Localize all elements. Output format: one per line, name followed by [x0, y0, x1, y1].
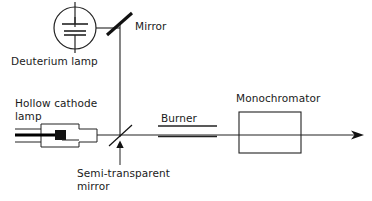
hollow-cathode-cup [55, 130, 66, 140]
semi-transparent-mirror-pointer-head [116, 141, 123, 149]
semi-transparent-mirror-pointer [116, 141, 123, 166]
mirror-label: Mirror [135, 20, 167, 32]
hollow-cathode-lamp-label-line1: Hollow cathode [15, 97, 97, 109]
deuterium-lamp-label: Deuterium lamp [11, 55, 98, 67]
hollow-cathode-lamp-symbol [15, 124, 97, 147]
semi-transparent-mirror-label-line2: mirror [77, 180, 110, 192]
burner-label: Burner [161, 112, 198, 124]
hollow-cathode-lamp-label-line2: lamp [15, 110, 42, 122]
schematic-canvas: Mirror Deuterium lamp Hollow cathode lam… [0, 0, 372, 201]
monochromator-label: Monochromator [236, 92, 321, 104]
deuterium-lamp-symbol [54, 2, 96, 53]
optical-schematic-diagram: Mirror Deuterium lamp Hollow cathode lam… [0, 0, 372, 201]
monochromator-box [239, 112, 301, 153]
semi-transparent-mirror-label-line1: Semi-transparent [77, 167, 170, 179]
